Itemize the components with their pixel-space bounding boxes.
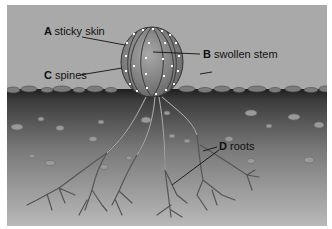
cactus-diagram: A sticky skin B swollen stem C spines D … — [7, 5, 327, 226]
label-c-letter: C — [44, 69, 55, 81]
label-b: B swollen stem — [203, 48, 278, 60]
label-a: A sticky skin — [44, 25, 105, 37]
label-d: D roots — [219, 140, 255, 152]
label-b-text: swollen stem — [214, 48, 278, 60]
soil-background — [7, 89, 327, 226]
diagram-canvas: A sticky skin B swollen stem C spines D … — [7, 5, 327, 226]
label-d-letter: D — [219, 140, 230, 152]
label-a-letter: A — [44, 25, 55, 37]
label-c-text: spines — [55, 69, 87, 81]
cactus — [121, 27, 183, 97]
label-d-text: roots — [230, 140, 255, 152]
label-b-letter: B — [203, 48, 214, 60]
label-c: C spines — [44, 69, 87, 81]
label-a-text: sticky skin — [55, 25, 105, 37]
